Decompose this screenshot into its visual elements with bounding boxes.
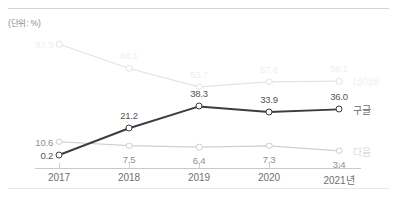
series-legend-label: 구글: [353, 102, 370, 117]
data-point-label: 0.2: [40, 150, 53, 161]
data-point-marker: [126, 125, 133, 132]
data-point-label: 87.3: [35, 39, 53, 50]
data-point-label: 57.6: [260, 63, 278, 74]
data-point-label: 7.3: [263, 153, 276, 164]
series-legend-label: 다음: [353, 143, 370, 158]
data-point-marker: [266, 143, 273, 150]
data-point-marker: [126, 142, 133, 149]
data-point-marker: [56, 138, 63, 145]
line-chart-plot: 20172018201920202021년87.368.153.757.658.…: [0, 0, 397, 197]
data-point-marker: [56, 41, 63, 48]
data-point-label: 33.9: [260, 94, 278, 105]
data-point-label: 21.2: [120, 110, 138, 121]
data-point-label: 58.1: [330, 63, 348, 74]
data-point-label: 36.0: [330, 91, 348, 102]
data-point-marker: [196, 144, 203, 151]
bottom-divider: [8, 188, 389, 189]
data-point-marker: [266, 79, 273, 86]
data-point-label: 53.7: [190, 68, 208, 79]
data-point-marker: [196, 103, 203, 110]
data-point-marker: [56, 152, 63, 159]
data-point-label: 68.1: [120, 50, 138, 61]
data-point-label: 38.3: [190, 88, 208, 99]
data-point-label: 7.5: [123, 153, 136, 164]
data-point-label: 3.4: [333, 158, 346, 169]
data-point-label: 6.4: [193, 155, 206, 166]
data-point-label: 10.6: [35, 136, 53, 147]
data-point-marker: [336, 78, 343, 85]
series-line: [59, 44, 339, 87]
data-point-marker: [336, 106, 343, 113]
data-point-marker: [266, 109, 273, 116]
data-point-marker: [336, 148, 343, 155]
data-point-marker: [126, 65, 133, 72]
chart-screenshot: (단위: %) 20172018201920202021년87.368.153.…: [0, 0, 397, 197]
series-legend-label: 네이버: [353, 74, 379, 89]
